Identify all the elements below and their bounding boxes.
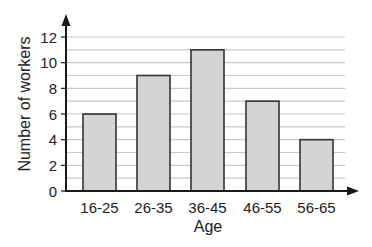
y-tick-label: 2	[49, 157, 57, 174]
bar-16-25	[83, 114, 116, 191]
y-tick-label: 10	[40, 54, 57, 71]
bars	[83, 50, 333, 191]
y-axis-arrow-icon	[62, 14, 71, 26]
bar-26-35	[137, 76, 170, 192]
x-tick-label: 16-25	[80, 199, 118, 216]
y-tick-label: 0	[49, 183, 57, 200]
x-tick-label: 26-35	[134, 199, 172, 216]
bar-46-55	[246, 101, 279, 191]
bar-56-65	[300, 140, 333, 191]
y-tick-label: 8	[49, 80, 57, 97]
x-tick-label: 46-55	[243, 199, 281, 216]
x-tick-labels: 16-2526-3536-4546-5556-65	[80, 199, 335, 216]
bar-36-45	[191, 50, 224, 191]
y-tick-label: 12	[40, 29, 57, 46]
x-axis-label: Age	[194, 218, 223, 235]
y-axis-label: Number of workers	[16, 36, 33, 171]
y-tick-label: 4	[49, 131, 57, 148]
bar-chart: 024681012 16-2526-3536-4546-5556-65 Age …	[0, 0, 372, 247]
y-tick-labels: 024681012	[40, 29, 66, 200]
x-tick-label: 36-45	[188, 199, 226, 216]
y-tick-label: 6	[49, 106, 57, 123]
x-axis-arrow-icon	[347, 187, 359, 196]
x-tick-label: 56-65	[297, 199, 335, 216]
